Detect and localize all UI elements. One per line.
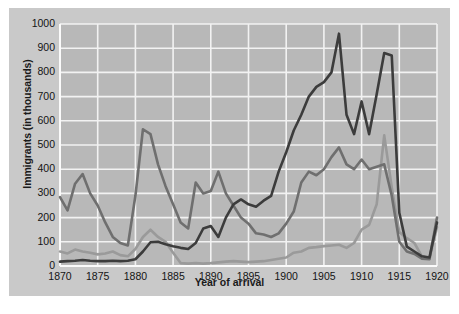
chart-svg	[9, 8, 450, 296]
chart-figure: Immigrants (in thousands) Year of arriva…	[9, 8, 450, 296]
plot-area	[9, 8, 450, 296]
